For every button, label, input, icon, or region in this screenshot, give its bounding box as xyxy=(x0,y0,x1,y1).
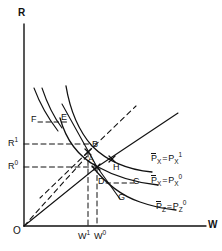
point-label-d: D xyxy=(98,177,105,186)
curve-label-px0-eq: = xyxy=(162,175,167,185)
curve-label-pz0-lhs-sub: Z xyxy=(162,206,166,213)
point-label-f: F xyxy=(31,115,37,124)
curve-label-px0-rhs-sup: 0 xyxy=(179,173,183,180)
curve-label-pz0-rhs-sup: 0 xyxy=(183,199,187,206)
y-tick-r0: R0 xyxy=(8,160,18,171)
curve-label-px0-rhs-sub: X xyxy=(174,180,178,187)
curve-label-pz0-overbar-group: P xyxy=(156,202,162,211)
point-label-g: G xyxy=(118,193,125,202)
curve-label-px0-overbar-group: P xyxy=(151,176,157,185)
x-tick-w0-sup: 0 xyxy=(103,229,107,236)
x-axis-label: W xyxy=(208,220,217,230)
ray-origin-solid xyxy=(24,167,97,226)
curve-label-px1: PX = PX1 xyxy=(151,152,182,165)
point-label-e: E xyxy=(61,113,67,122)
x-tick-w1: W1 xyxy=(78,230,90,241)
curve-label-px0: PX = PX0 xyxy=(151,174,182,187)
curve-label-pz0-eq: = xyxy=(167,201,172,211)
x-tick-w0: W0 xyxy=(94,230,106,241)
curve-label-px1-lhs-sub: X xyxy=(157,158,161,165)
curve-label-px0-lhs: P xyxy=(151,175,157,185)
point-label-b: B xyxy=(92,140,98,149)
curve-label-px1-rhs-sup: 1 xyxy=(179,151,183,158)
curve-label-px1-eq: = xyxy=(162,153,167,163)
curve-label-px1-rhs-sub: X xyxy=(174,158,178,165)
y-tick-r1-sup: 1 xyxy=(15,136,19,143)
curve-label-pz0-rhs-sub: Z xyxy=(179,206,183,213)
point-label-c: C xyxy=(133,177,140,186)
point-label-a: A xyxy=(88,155,94,164)
y-tick-r0-sup: 0 xyxy=(15,159,19,166)
overbar xyxy=(151,175,156,176)
figure-canvas: R W O R1 R0 W1 W0 B A H D C G F E PX = P… xyxy=(0,0,222,251)
x-tick-w1-sup: 1 xyxy=(87,229,91,236)
curve-label-px1-lhs: P xyxy=(151,153,157,163)
curve-label-pz0: PZ = PZ0 xyxy=(156,200,186,213)
curve-px0 xyxy=(60,118,158,185)
curve-label-px1-overbar-group: P xyxy=(151,154,157,163)
ray-dashed-lower-left xyxy=(40,152,88,198)
point-label-h: H xyxy=(113,163,120,172)
x-tick-w1-base: W xyxy=(78,231,87,241)
diagram-svg xyxy=(0,0,222,251)
curve-px1-fragment xyxy=(34,88,58,131)
overbar xyxy=(156,201,161,202)
overbar xyxy=(151,153,156,154)
curve-label-pz0-lhs: P xyxy=(156,201,162,211)
curve-label-px0-lhs-sub: X xyxy=(157,180,161,187)
y-axis-label: R xyxy=(18,8,25,18)
y-tick-r1: R1 xyxy=(8,137,18,148)
x-tick-w0-base: W xyxy=(94,231,103,241)
origin-label: O xyxy=(13,226,21,236)
